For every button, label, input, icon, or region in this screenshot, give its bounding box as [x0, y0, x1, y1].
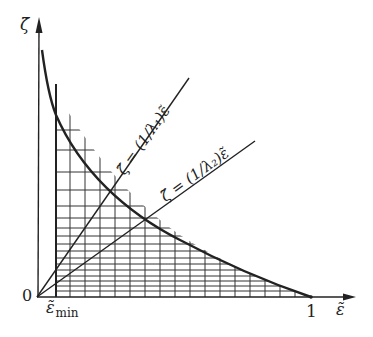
y-axis-arrow-icon: [36, 17, 43, 33]
x-axis-label: ε̃: [336, 300, 345, 319]
y-axis: [36, 17, 43, 297]
x-one-point: [309, 295, 313, 299]
x-axis-arrow-icon: [343, 294, 356, 301]
x-tick-epsilon-sub: min: [56, 306, 79, 320]
x-tick-epsilon-min: ε̃min: [46, 298, 79, 317]
diagram-figure: ζ̃ ε̃ 0 1 ε̃min ζ̃ = (1/λ₁)ε̃ ζ̃ = (1/λ₂…: [0, 0, 373, 337]
origin-label: 0: [22, 286, 32, 305]
x-tick-one: 1: [306, 301, 317, 321]
x-tick-epsilon-base: ε̃: [46, 298, 55, 317]
y-axis-label: ζ̃: [20, 14, 29, 34]
boundary-curve: [42, 50, 311, 297]
